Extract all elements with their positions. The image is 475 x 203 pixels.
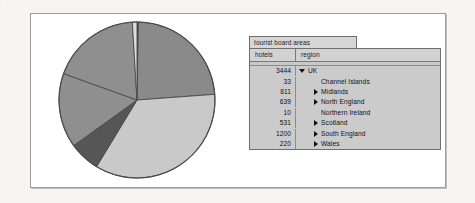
table-row[interactable]: 220Wales	[250, 139, 440, 149]
table-header-row: hotels region	[250, 49, 440, 62]
chevron-right-icon[interactable]	[314, 89, 318, 95]
cell-region: UK	[296, 66, 440, 76]
region-label: Midlands	[321, 87, 348, 97]
cell-region: Northern Ireland	[296, 108, 440, 118]
chart-panel: tourist board areas hotels region 3444UK…	[30, 13, 446, 188]
region-label: Northern Ireland	[321, 108, 370, 118]
column-header-region[interactable]: region	[296, 49, 440, 61]
cell-hotels: 1200	[250, 129, 296, 139]
table-row[interactable]: 3444UK	[250, 66, 440, 76]
table-row[interactable]: 10Northern Ireland	[250, 108, 440, 118]
cell-region: Wales	[296, 139, 440, 149]
cell-hotels: 811	[250, 87, 296, 97]
region-label: Channel Islands	[321, 77, 370, 87]
cell-region: North England	[296, 97, 440, 107]
table-row[interactable]: 531Scotland	[250, 118, 440, 128]
cell-hotels: 639	[250, 97, 296, 107]
table-row[interactable]: 33Channel Islands	[250, 76, 440, 86]
column-header-hotels[interactable]: hotels	[250, 49, 296, 61]
table-row[interactable]: 811Midlands	[250, 87, 440, 97]
data-table: hotels region 3444UK33Channel Islands811…	[249, 48, 441, 150]
region-label: Wales	[321, 139, 340, 149]
table-body: 3444UK33Channel Islands811Midlands639Nor…	[250, 66, 440, 149]
pie-chart-area	[33, 16, 245, 184]
chevron-down-icon[interactable]	[299, 69, 305, 73]
region-label: UK	[308, 66, 317, 76]
cell-hotels: 531	[250, 118, 296, 128]
cell-region: Channel Islands	[296, 77, 440, 87]
cell-region: South England	[296, 129, 440, 139]
cell-region: Scotland	[296, 118, 440, 128]
cell-region: Midlands	[296, 87, 440, 97]
region-label: North England	[321, 97, 364, 107]
cell-hotels: 220	[250, 139, 296, 149]
pie-chart-svg	[43, 20, 231, 180]
chevron-right-icon[interactable]	[314, 120, 318, 126]
table-row[interactable]: 1200South England	[250, 128, 440, 138]
pie-slices	[59, 22, 215, 178]
cell-hotels: 10	[250, 108, 296, 118]
data-window: tourist board areas hotels region 3444UK…	[249, 36, 441, 150]
pie-chart	[43, 20, 231, 180]
chevron-right-icon[interactable]	[314, 99, 318, 105]
table-row[interactable]: 639North England	[250, 97, 440, 107]
cell-hotels: 33	[250, 77, 296, 87]
chevron-right-icon[interactable]	[314, 131, 318, 137]
region-label: South England	[321, 129, 366, 139]
cell-hotels: 3444	[250, 66, 296, 76]
pie-slice[interactable]	[137, 22, 215, 100]
region-label: Scotland	[321, 118, 347, 128]
window-title-text: tourist board areas	[254, 39, 310, 46]
chevron-right-icon[interactable]	[314, 141, 318, 147]
